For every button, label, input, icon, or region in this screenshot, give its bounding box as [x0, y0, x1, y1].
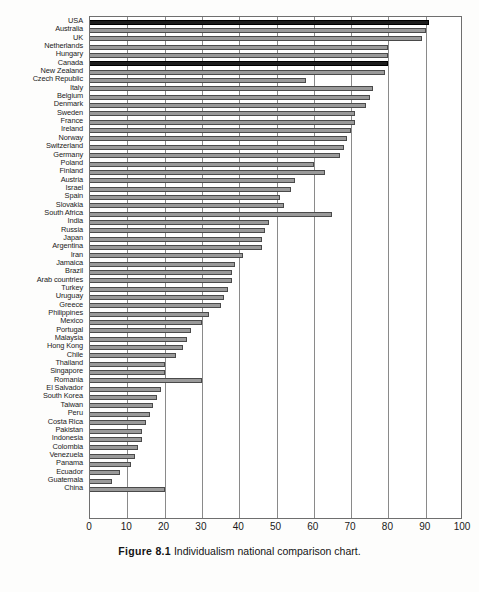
bar-row: [90, 160, 461, 168]
bar-row: [90, 135, 461, 143]
bar-row: [90, 360, 461, 368]
x-tick-20: 20: [158, 521, 169, 532]
bar-el-salvador: [90, 387, 161, 392]
x-tick-10: 10: [121, 521, 132, 532]
bar-china: [90, 487, 165, 492]
bar-ireland: [90, 128, 351, 133]
bar-row: [90, 485, 461, 493]
bar-slovakia: [90, 203, 284, 208]
bar-south-africa: [90, 212, 332, 217]
bar-indonesia: [90, 437, 142, 442]
bar-row: [90, 435, 461, 443]
bar-row: [90, 35, 461, 43]
bar-finland: [90, 170, 325, 175]
bar-hungary: [90, 53, 388, 58]
bar-hong-kong: [90, 345, 183, 350]
bar-turkey: [90, 287, 228, 292]
bar-row: [90, 26, 461, 34]
x-axis-tick-labels: 0102030405060708090100: [89, 521, 462, 537]
figure-page: USAAustraliaUKNetherlandsHungaryCanadaNe…: [0, 0, 479, 592]
y-label-china: China: [0, 484, 86, 492]
bar-row: [90, 143, 461, 151]
bar-row: [90, 177, 461, 185]
bar-belgium: [90, 95, 370, 100]
bar-iran: [90, 253, 243, 258]
bar-mexico: [90, 320, 202, 325]
x-tick-30: 30: [195, 521, 206, 532]
figure-number: Figure 8.1: [118, 545, 171, 557]
bar-row: [90, 110, 461, 118]
bar-row: [90, 402, 461, 410]
x-tick-40: 40: [233, 521, 244, 532]
bar-peru: [90, 412, 150, 417]
bar-uk: [90, 36, 422, 41]
bar-row: [90, 51, 461, 59]
bar-row: [90, 43, 461, 51]
bar-malaysia: [90, 337, 187, 342]
bar-row: [90, 85, 461, 93]
bar-row: [90, 410, 461, 418]
bar-brazil: [90, 270, 232, 275]
bar-jamaica: [90, 262, 235, 267]
bar-rows: [90, 17, 461, 518]
bar-switzerland: [90, 145, 344, 150]
bar-italy: [90, 86, 373, 91]
bar-row: [90, 260, 461, 268]
bar-costa-rica: [90, 420, 146, 425]
bar-row: [90, 335, 461, 343]
bar-portugal: [90, 328, 191, 333]
bar-row: [90, 152, 461, 160]
bar-venezuela: [90, 454, 135, 459]
bar-row: [90, 235, 461, 243]
bar-ecuador: [90, 470, 120, 475]
bar-guatemala: [90, 479, 112, 484]
bar-row: [90, 202, 461, 210]
bar-row: [90, 168, 461, 176]
caption-text: Individualism national comparison chart.: [174, 545, 361, 557]
bar-row: [90, 126, 461, 134]
bar-india: [90, 220, 269, 225]
bar-pakistan: [90, 429, 142, 434]
x-tick-80: 80: [382, 521, 393, 532]
x-tick-70: 70: [345, 521, 356, 532]
bar-south-korea: [90, 395, 157, 400]
bar-colombia: [90, 445, 138, 450]
bar-taiwan: [90, 403, 153, 408]
bar-row: [90, 393, 461, 401]
bar-row: [90, 452, 461, 460]
x-tick-50: 50: [270, 521, 281, 532]
bar-row: [90, 268, 461, 276]
bar-row: [90, 327, 461, 335]
bar-row: [90, 60, 461, 68]
bar-philippines: [90, 312, 209, 317]
bar-russia: [90, 228, 265, 233]
bar-row: [90, 427, 461, 435]
bar-row: [90, 193, 461, 201]
bar-row: [90, 76, 461, 84]
bar-row: [90, 101, 461, 109]
bar-japan: [90, 237, 262, 242]
bar-germany: [90, 153, 340, 158]
bar-norway: [90, 136, 347, 141]
bar-arab-countries: [90, 278, 232, 283]
bar-denmark: [90, 103, 366, 108]
bar-row: [90, 477, 461, 485]
bar-argentina: [90, 245, 262, 250]
bar-netherlands: [90, 45, 388, 50]
bar-sweden: [90, 111, 355, 116]
individualism-bar-chart: USAAustraliaUKNetherlandsHungaryCanadaNe…: [0, 0, 479, 540]
bar-chile: [90, 353, 176, 358]
bar-spain: [90, 195, 280, 200]
bar-romania: [90, 378, 202, 383]
bar-row: [90, 318, 461, 326]
bar-row: [90, 377, 461, 385]
bar-row: [90, 252, 461, 260]
bar-row: [90, 185, 461, 193]
bar-row: [90, 93, 461, 101]
bar-row: [90, 310, 461, 318]
bar-row: [90, 18, 461, 26]
bar-austria: [90, 178, 295, 183]
bar-row: [90, 302, 461, 310]
bar-panama: [90, 462, 131, 467]
bar-row: [90, 419, 461, 427]
